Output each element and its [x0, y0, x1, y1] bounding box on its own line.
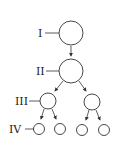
- node-level-i: [59, 21, 83, 45]
- arrow-iii-left-to-iv-1: [41, 109, 44, 119]
- node-level-iii-right: [84, 94, 100, 110]
- level-label-iv: IV: [9, 123, 22, 136]
- arrow-iii-right-to-iv-3: [86, 110, 89, 120]
- node-level-iii-left: [40, 93, 56, 109]
- arrow-ii-to-iii-right: [79, 81, 86, 91]
- node-level-iv-1: [34, 124, 45, 135]
- node-level-iv-4: [99, 125, 110, 136]
- level-label-ii: II: [36, 65, 45, 78]
- node-level-iv-2: [55, 124, 66, 135]
- arrow-ii-to-iii-left: [55, 81, 63, 91]
- level-label-iii: III: [15, 95, 28, 108]
- arrow-iii-right-to-iv-4: [96, 110, 100, 120]
- node-level-iv-3: [77, 125, 88, 136]
- arrow-iii-left-to-iv-2: [52, 109, 56, 119]
- node-level-ii: [59, 59, 83, 83]
- tree-diagram: I II III IV: [0, 0, 117, 144]
- level-label-i: I: [38, 27, 42, 40]
